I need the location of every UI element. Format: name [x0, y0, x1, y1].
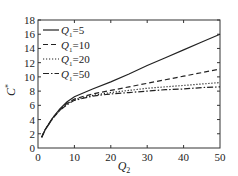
x-tick-label: 50	[215, 151, 227, 163]
x-tick-label: 0	[35, 151, 41, 163]
x-tick-label: 10	[69, 151, 81, 163]
legend-label: Q1=10	[61, 39, 90, 54]
legend-label: Q1=5	[61, 24, 85, 39]
y-tick-label: 4	[30, 114, 36, 126]
y-tick-label: 2	[30, 128, 36, 140]
series-line	[42, 83, 220, 138]
y-axis-ticks: 024681012141618	[24, 14, 220, 154]
y-tick-label: 18	[24, 14, 36, 26]
y-axis-label: C*	[4, 84, 18, 96]
y-tick-label: 16	[24, 28, 36, 40]
x-tick-label: 30	[142, 151, 154, 163]
legend: Q1=5Q1=10Q1=20Q1=50	[43, 24, 90, 83]
series-line	[42, 87, 220, 137]
y-tick-label: 8	[30, 85, 36, 97]
legend-label: Q1=20	[61, 53, 90, 68]
x-axis-label: Q2	[118, 159, 131, 175]
x-tick-label: 40	[178, 151, 190, 163]
legend-label: Q1=50	[61, 68, 90, 83]
x-tick-label: 20	[105, 151, 117, 163]
y-tick-label: 14	[24, 42, 36, 54]
y-tick-label: 6	[30, 99, 36, 111]
line-chart: 024681012141618 01020304050 Q1=5Q1=10Q1=…	[0, 0, 238, 176]
y-tick-label: 10	[24, 71, 36, 83]
y-tick-label: 12	[24, 57, 35, 69]
